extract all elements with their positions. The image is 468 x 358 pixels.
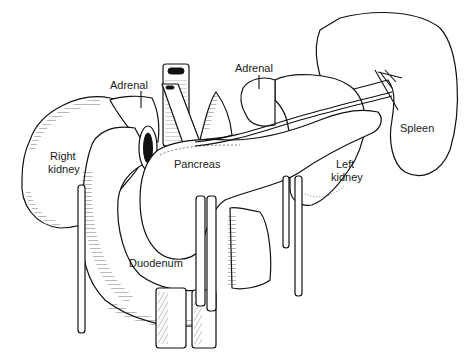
label-right-kidney-1: Right — [50, 150, 76, 163]
anatomy-drawing — [0, 0, 468, 358]
label-left-kidney-2: kidney — [331, 171, 363, 184]
anatomy-figure: Adrenal Adrenal Right kidney Pancreas Le… — [0, 0, 468, 358]
label-pancreas: Pancreas — [174, 158, 220, 171]
great-vessels — [162, 64, 232, 146]
label-left-kidney-1: Left — [336, 158, 354, 171]
left-adrenal — [241, 75, 275, 126]
label-spleen: Spleen — [400, 122, 434, 135]
label-right-kidney-2: kidney — [48, 163, 80, 176]
label-duodenum: Duodenum — [129, 257, 183, 270]
label-right-adrenal: Adrenal — [110, 79, 148, 92]
label-left-adrenal: Adrenal — [235, 62, 273, 75]
